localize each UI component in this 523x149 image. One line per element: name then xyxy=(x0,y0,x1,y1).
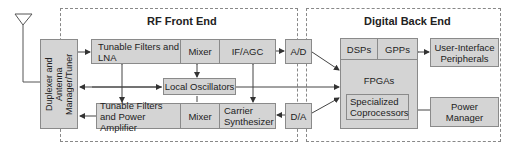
ad-converter-block: A/D xyxy=(285,39,312,64)
tunable-filters-lna-block: Tunable Filters and LNA xyxy=(91,39,181,64)
user-interface-peripherals-block: User-Interface Peripherals xyxy=(430,38,499,67)
antenna-icon xyxy=(15,14,40,82)
fpgas-label: FPGAs xyxy=(364,75,395,86)
local-oscillators-block: Local Oscillators xyxy=(163,78,236,95)
dsps-block: DSPs xyxy=(340,38,378,60)
gpps-block: GPPs xyxy=(377,38,418,60)
carrier-synthesizer-block: Carrier Synthesizer xyxy=(219,103,276,129)
if-agc-block: IF/AGC xyxy=(219,39,276,64)
duplexer-antenna-tuner-block: Duplexer and Antenna Manager/Tuner xyxy=(40,39,78,129)
tunable-filters-pa-block: Tunable Filters and Power Amplifier xyxy=(96,103,181,129)
da-converter-block: D/A xyxy=(285,103,312,129)
mixer-rx-block: Mixer xyxy=(180,39,220,64)
mixer-tx-block: Mixer xyxy=(180,103,220,129)
power-manager-block: Power Manager xyxy=(430,97,499,127)
specialized-coprocessors-block: Specialized Coprocessors xyxy=(346,94,409,120)
